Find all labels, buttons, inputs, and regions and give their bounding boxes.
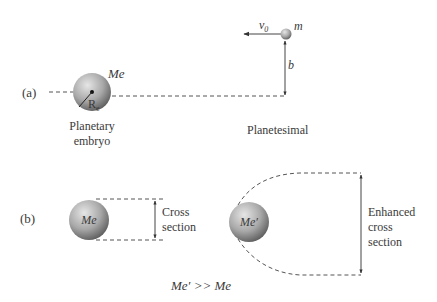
enhanced-cross-section: Me′ Enhanced cross section (229, 173, 415, 275)
gravitational-focusing-diagram: (a) Re Me Planetary embryo v0 m b Planet… (0, 0, 437, 302)
panel-a: (a) Re Me Planetary embryo v0 m b Planet… (22, 18, 309, 148)
impact-parameter-label: b (288, 58, 294, 72)
body-me-label: Me (80, 213, 97, 227)
geometric-cross-section: Me Cross section (69, 199, 196, 240)
embryo-caption-line1: Planetary (69, 119, 114, 133)
embryo-caption-line2: embryo (74, 134, 111, 148)
planetesimal: v0 m b Planetesimal (244, 18, 309, 137)
planetesimal-sphere (281, 29, 292, 40)
planetary-embryo: Re Me Planetary embryo (69, 66, 124, 148)
panel-a-label: (a) (22, 85, 36, 100)
enhanced-caption-line1: Enhanced (368, 205, 415, 219)
velocity-label: v0 (259, 18, 268, 34)
focused-trajectory-bottom (238, 239, 361, 275)
enhanced-caption-line2: cross (368, 220, 393, 234)
body-me-prime-label: Me′ (239, 215, 258, 229)
cross-section-caption-line2: section (162, 220, 196, 234)
planetesimal-mass-label: m (294, 19, 303, 33)
focused-trajectory-top (238, 173, 361, 205)
mass-relation-label: Me′ >> Me (170, 278, 231, 293)
enhanced-caption-line3: section (368, 235, 402, 249)
cross-section-caption-line1: Cross (162, 205, 190, 219)
embryo-mass-label: Me (107, 66, 125, 81)
panel-b-label: (b) (20, 211, 35, 226)
planetesimal-caption: Planetesimal (247, 123, 309, 137)
panel-b: (b) Me Cross section Me′ Enhanced cross … (20, 173, 415, 293)
